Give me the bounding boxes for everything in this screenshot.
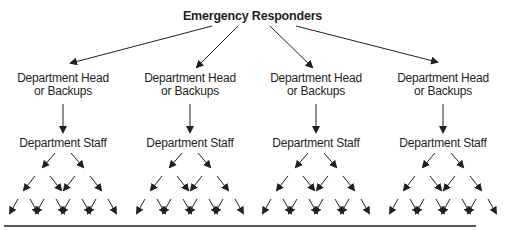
department-staff-2: Department Staff [127,136,253,150]
tree-arrow [108,199,116,213]
tree-arrow [151,176,162,190]
department-head-4: Department Head or Backups [380,72,505,98]
arrow-to-branch-2 [197,26,238,67]
tree-arrow [277,176,288,190]
tree-arrow [10,199,18,213]
tree-arrow [390,199,398,213]
tree-arrow [404,176,415,190]
tree-arrow [341,199,349,213]
tree-arrow [263,199,271,213]
tree-arrow [71,153,83,167]
tree-arrow [451,153,463,167]
tree-arrow [343,176,354,190]
tree-arrow [317,176,328,190]
tree-arrow [430,176,441,190]
tree-arrow [191,176,202,190]
tree-arrow [50,176,61,190]
department-staff-3: Department Staff [253,136,379,150]
tree-arrow [361,199,369,213]
department-staff-1: Department Staff [0,136,126,150]
tree-arrow [324,153,336,167]
tree-arrow [177,176,188,190]
tree-arrow [24,176,35,190]
arrow-to-branch-3 [270,26,312,67]
tree-arrow [36,199,44,213]
tree-arrow [423,153,435,167]
tree-arrow [198,153,210,167]
tree-arrow [64,176,75,190]
arrow-to-branch-1 [71,26,212,63]
tree-arrow [217,176,228,190]
diagram-arrows [0,0,505,230]
tree-arrow [189,199,197,213]
tree-arrow [488,199,496,213]
tree-arrow [296,153,308,167]
tree-arrow [90,176,101,190]
tree-arrow [43,153,55,167]
tree-arrow [470,176,481,190]
tree-arrow [303,176,314,190]
diagram-title: Emergency Responders [0,9,505,23]
tree-arrow [170,153,182,167]
tree-arrow [215,199,223,213]
tree-arrow [62,199,70,213]
tree-arrow [137,199,145,213]
head-label-line2: or Backups [0,85,126,98]
tree-arrow [416,199,424,213]
head-label-line2: or Backups [127,85,253,98]
tree-arrow [442,199,450,213]
tree-arrow [444,176,455,190]
arrow-to-branch-4 [296,26,437,62]
tree-arrow [163,199,171,213]
tree-arrow [468,199,476,213]
department-head-3: Department Head or Backups [253,72,379,98]
department-head-1: Department Head or Backups [0,72,126,98]
tree-arrow [88,199,96,213]
tree-arrow [289,199,297,213]
head-label-line2: or Backups [380,85,505,98]
head-label-line2: or Backups [253,85,379,98]
tree-arrow [315,199,323,213]
department-staff-4: Department Staff [380,136,505,150]
department-head-2: Department Head or Backups [127,72,253,98]
tree-arrow [235,199,243,213]
